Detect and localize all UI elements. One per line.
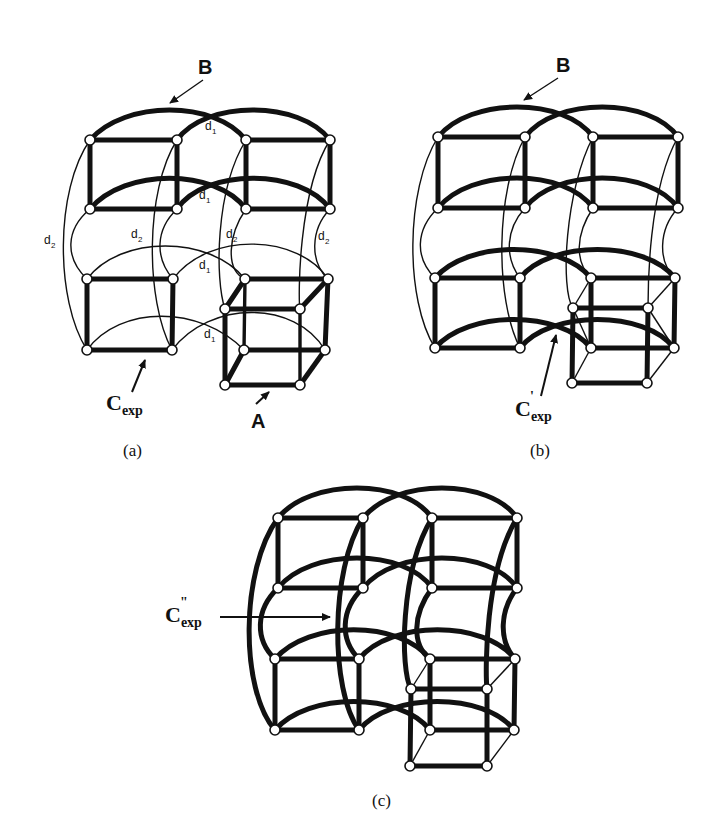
caption-a: (a): [123, 441, 142, 460]
svg-text:d: d: [204, 327, 211, 341]
svg-text:1: 1: [211, 335, 216, 344]
svg-text:2: 2: [51, 241, 56, 250]
panel-a: d1 d1 d1 d1 d2 d2 d2 d2 B Cexp A (a): [44, 56, 335, 460]
svg-text:d: d: [199, 188, 206, 202]
svg-text:1: 1: [212, 127, 217, 136]
label-a: A: [251, 410, 265, 432]
arrow-cexp-b: [541, 335, 556, 396]
svg-text:d: d: [199, 258, 206, 272]
svg-text:2: 2: [233, 235, 238, 244]
svg-text:d: d: [131, 227, 138, 241]
svg-text:1: 1: [206, 266, 211, 275]
panel-c: Cexp" (c): [165, 488, 522, 810]
svg-text:d: d: [205, 119, 212, 133]
cycle-c-exp: [87, 279, 173, 350]
upper-cube-c: [278, 488, 517, 588]
label-cexp-prime: Cexp': [515, 389, 552, 424]
arrow-a: [256, 392, 269, 404]
label-b-a: B: [198, 56, 212, 78]
svg-text:1: 1: [206, 196, 211, 205]
d2-edges: [63, 140, 330, 350]
arrow-b-b: [524, 78, 558, 100]
lower-structure-b: [435, 250, 675, 384]
hypercube-expansion-figure: d1 d1 d1 d1 d2 d2 d2 d2 B Cexp A (a): [0, 0, 716, 836]
arrow-b-a: [170, 80, 203, 103]
caption-b: (b): [530, 441, 550, 460]
svg-text:2: 2: [138, 235, 143, 244]
cube-b-b: [438, 107, 678, 208]
svg-text:d: d: [226, 227, 233, 241]
svg-text:d: d: [44, 233, 51, 247]
label-b-b: B: [556, 54, 570, 76]
svg-text:d: d: [318, 229, 325, 243]
caption-c: (c): [372, 791, 391, 810]
lower-structure-c: [275, 630, 515, 766]
label-cexp-a: Cexp: [106, 390, 143, 418]
svg-text:2: 2: [325, 237, 330, 246]
arrow-cexp-a: [132, 360, 145, 392]
panel-b: B Cexp' (b): [413, 54, 683, 460]
cube-a: [225, 279, 328, 385]
label-cexp-double-prime: Cexp": [165, 595, 202, 630]
